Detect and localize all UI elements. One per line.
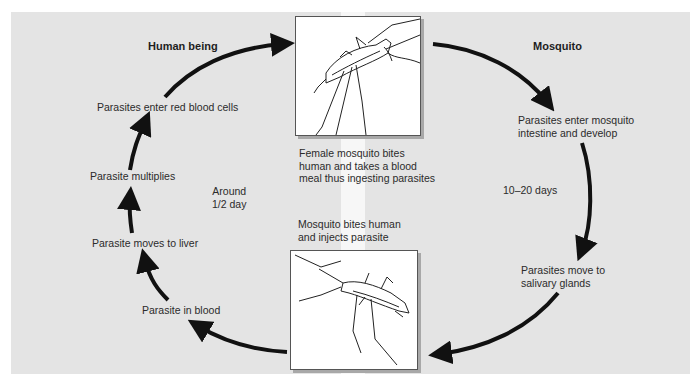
mosquito-duration-label: 10–20 days bbox=[503, 184, 557, 197]
step-moves-to-liver: Parasite moves to liver bbox=[92, 237, 198, 250]
arrow-blood-to-liver bbox=[145, 260, 168, 300]
arrow-bite-to-intestine bbox=[433, 44, 547, 102]
step-parasite-in-blood: Parasite in blood bbox=[142, 304, 220, 317]
human-being-heading: Human being bbox=[148, 40, 218, 53]
bottom-image-caption: Mosquito bites human and injects parasit… bbox=[298, 218, 401, 243]
cycle-arrows bbox=[0, 0, 699, 381]
step-parasite-multiplies: Parasite multiplies bbox=[90, 170, 175, 183]
step-enter-red-blood-cells: Parasites enter red blood cells bbox=[97, 101, 238, 114]
step-enter-mosquito-intestine: Parasites enter mosquito intestine and d… bbox=[518, 114, 634, 139]
top-image-caption: Female mosquito bites human and takes a … bbox=[299, 147, 435, 185]
arrow-inject-to-blood bbox=[198, 326, 287, 352]
arrow-salivary-to-inject bbox=[440, 293, 558, 354]
human-duration-label: Around 1/2 day bbox=[212, 185, 246, 210]
step-move-to-salivary-glands: Parasites move to salivary glands bbox=[521, 264, 605, 289]
arrow-liver-to-multiplies bbox=[130, 198, 132, 233]
arrow-intestine-to-salivary bbox=[582, 143, 590, 250]
arrow-multiplies-to-rbc bbox=[130, 122, 145, 170]
mosquito-heading: Mosquito bbox=[533, 40, 582, 53]
